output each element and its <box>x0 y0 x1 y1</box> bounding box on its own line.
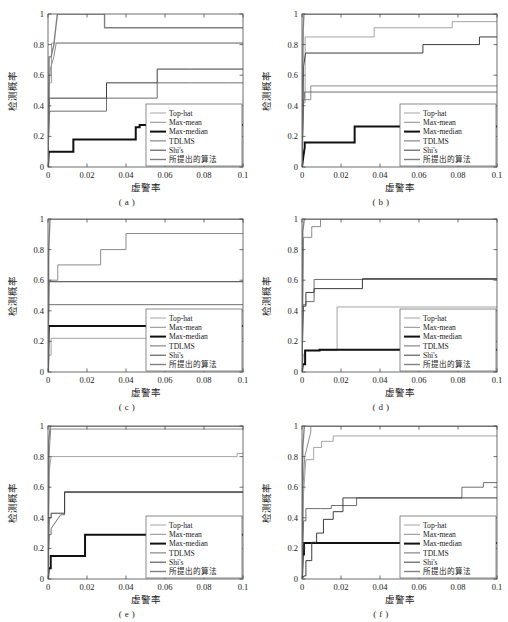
y-axis-label: 检测概率 <box>7 483 18 523</box>
y-tick-label: 0.8 <box>33 40 44 50</box>
legend-label-所提出的算法: 所提出的算法 <box>169 154 217 164</box>
legend-label-TDLMS: TDLMS <box>423 137 449 146</box>
roc-figure-grid: 00.020.040.060.080.100.20.40.60.81虚警率检测概… <box>0 0 508 622</box>
y-tick-label: 0.8 <box>287 452 298 462</box>
roc-plot-b: 00.020.040.060.080.100.20.40.60.81虚警率检测概… <box>254 0 508 205</box>
x-tick-label: 0 <box>300 170 304 180</box>
y-tick-label: 0 <box>294 162 298 172</box>
y-tick-label: 1 <box>40 421 44 431</box>
legend-label-Max-mean: Max-mean <box>169 530 202 539</box>
legend-label-Max-mean: Max-mean <box>423 118 456 127</box>
y-tick-label: 0.2 <box>33 336 44 346</box>
legend-label-Shi's: Shi's <box>169 146 183 155</box>
x-tick-label: 0.08 <box>451 582 466 592</box>
y-tick-label: 0.4 <box>287 513 298 523</box>
legend-label-TDLMS: TDLMS <box>169 137 195 146</box>
roc-panel-f: 00.020.040.060.080.100.20.40.60.81虚警率检测概… <box>254 412 508 617</box>
subfigure-label-c: ( c ) <box>0 402 254 412</box>
y-axis-label: 检测概率 <box>261 71 272 111</box>
legend-label-所提出的算法: 所提出的算法 <box>169 566 217 576</box>
y-axis-label: 检测概率 <box>261 276 272 316</box>
y-tick-label: 0.8 <box>287 245 298 255</box>
legend-label-Shi's: Shi's <box>169 351 183 360</box>
x-tick-label: 0.1 <box>238 375 249 385</box>
x-tick-label: 0.08 <box>197 375 212 385</box>
y-tick-label: 0.8 <box>33 452 44 462</box>
x-tick-label: 0 <box>300 375 304 385</box>
subfigure-label-e: ( e ) <box>0 609 254 619</box>
roc-plot-e: 00.020.040.060.080.100.20.40.60.81虚警率检测概… <box>0 412 254 617</box>
x-tick-label: 0 <box>300 582 304 592</box>
x-tick-label: 0.02 <box>334 375 349 385</box>
y-tick-label: 0.2 <box>287 543 298 553</box>
x-axis-label: 虚警率 <box>131 182 161 193</box>
y-tick-label: 0 <box>40 367 44 377</box>
legend-label-所提出的算法: 所提出的算法 <box>423 154 471 164</box>
y-tick-label: 0.6 <box>287 482 298 492</box>
roc-panel-c: 00.020.040.060.080.100.20.40.60.81虚警率检测概… <box>0 205 254 410</box>
y-tick-label: 0.6 <box>287 275 298 285</box>
x-axis-label: 虚警率 <box>131 594 161 605</box>
y-tick-label: 0.4 <box>33 306 44 316</box>
y-tick-label: 0.2 <box>287 131 298 141</box>
x-tick-label: 0.04 <box>119 375 135 385</box>
y-tick-label: 0 <box>294 367 298 377</box>
y-tick-label: 0.4 <box>287 306 298 316</box>
legend-label-TDLMS: TDLMS <box>169 549 195 558</box>
y-tick-label: 0 <box>294 574 298 584</box>
legend-label-Max-mean: Max-mean <box>169 323 202 332</box>
x-tick-label: 0.06 <box>412 170 427 180</box>
roc-panel-d: 00.020.040.060.080.100.20.40.60.81虚警率检测概… <box>254 205 508 410</box>
roc-panel-a: 00.020.040.060.080.100.20.40.60.81虚警率检测概… <box>0 0 254 205</box>
legend-label-Shi's: Shi's <box>423 351 437 360</box>
legend-label-所提出的算法: 所提出的算法 <box>423 359 471 369</box>
y-tick-label: 0.2 <box>287 336 298 346</box>
y-tick-label: 0.2 <box>33 543 44 553</box>
legend-label-Top-hat: Top-hat <box>423 109 447 118</box>
legend-label-Shi's: Shi's <box>423 558 437 567</box>
x-tick-label: 0.06 <box>412 582 427 592</box>
legend-label-Max-mean: Max-mean <box>423 530 456 539</box>
roc-panel-b: 00.020.040.060.080.100.20.40.60.81虚警率检测概… <box>254 0 508 205</box>
y-tick-label: 0 <box>40 574 44 584</box>
x-tick-label: 0.06 <box>158 582 173 592</box>
x-tick-label: 0.02 <box>80 375 95 385</box>
legend-label-Top-hat: Top-hat <box>423 521 447 530</box>
x-tick-label: 0.08 <box>451 375 466 385</box>
x-axis-label: 虚警率 <box>131 387 161 398</box>
legend-label-Max-median: Max-median <box>423 332 462 341</box>
legend-label-Top-hat: Top-hat <box>423 314 447 323</box>
y-axis-label: 检测概率 <box>261 483 272 523</box>
x-tick-label: 0.1 <box>492 375 503 385</box>
y-tick-label: 0.2 <box>33 131 44 141</box>
x-tick-label: 0.04 <box>119 170 135 180</box>
x-tick-label: 0 <box>46 170 50 180</box>
y-tick-label: 1 <box>40 9 44 19</box>
subfigure-label-d: ( d ) <box>254 402 508 412</box>
x-tick-label: 0.08 <box>451 170 466 180</box>
roc-panel-e: 00.020.040.060.080.100.20.40.60.81虚警率检测概… <box>0 412 254 617</box>
x-axis-label: 虚警率 <box>385 387 415 398</box>
x-tick-label: 0.02 <box>80 582 95 592</box>
x-tick-label: 0.1 <box>492 170 503 180</box>
legend-label-Max-mean: Max-mean <box>423 323 456 332</box>
y-tick-label: 1 <box>294 9 298 19</box>
legend-label-Max-mean: Max-mean <box>169 118 202 127</box>
x-tick-label: 0.02 <box>334 170 349 180</box>
x-tick-label: 0.04 <box>373 582 389 592</box>
legend-label-Top-hat: Top-hat <box>169 521 193 530</box>
roc-plot-f: 00.020.040.060.080.100.20.40.60.81虚警率检测概… <box>254 412 508 617</box>
y-tick-label: 1 <box>294 214 298 224</box>
x-tick-label: 0.1 <box>492 582 503 592</box>
x-tick-label: 0.04 <box>373 170 389 180</box>
y-tick-label: 0.4 <box>287 101 298 111</box>
x-tick-label: 0.04 <box>373 375 389 385</box>
legend-label-Top-hat: Top-hat <box>169 109 193 118</box>
legend-label-TDLMS: TDLMS <box>423 342 449 351</box>
roc-plot-c: 00.020.040.060.080.100.20.40.60.81虚警率检测概… <box>0 205 254 410</box>
x-tick-label: 0.04 <box>119 582 135 592</box>
legend-label-Max-median: Max-median <box>169 332 208 341</box>
x-tick-label: 0.02 <box>334 582 349 592</box>
y-tick-label: 0.6 <box>33 70 44 80</box>
legend-label-Max-median: Max-median <box>423 127 462 136</box>
